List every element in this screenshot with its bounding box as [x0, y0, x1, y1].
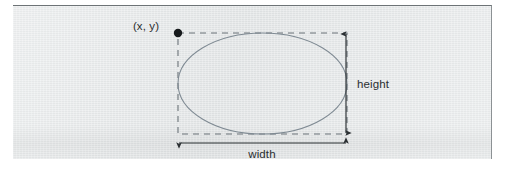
figure-root: (x, y) height width: [0, 0, 513, 176]
anchor-point-label: (x, y): [133, 20, 159, 32]
height-label: height: [357, 78, 390, 90]
width-label: width: [247, 148, 275, 160]
ellipse-shape: [178, 33, 347, 134]
anchor-point-dot-icon: [174, 29, 182, 37]
ellipse-bounding-box-diagram: (x, y) height width: [0, 0, 513, 176]
bounding-box-dashed-rect: [178, 33, 347, 134]
